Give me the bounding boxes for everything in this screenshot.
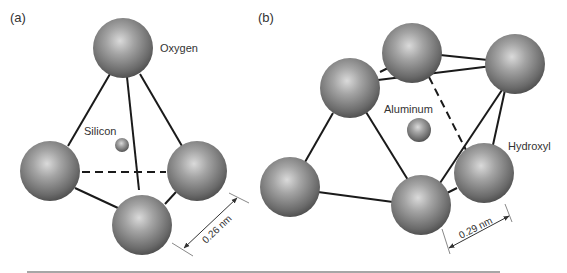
silicon-label: Silicon — [84, 125, 116, 137]
silicon-atom — [115, 138, 129, 152]
hydroxyl-atom-right — [454, 143, 514, 203]
oxygen-atom-bottom — [112, 195, 172, 255]
oxygen-atom-top — [93, 18, 153, 78]
oxygen-label: Oxygen — [160, 42, 198, 54]
aluminum-atom — [407, 118, 431, 142]
hydroxyl-atom-top-right — [485, 34, 545, 94]
hydroxyl-atom-upper-left — [320, 58, 380, 118]
oxygen-atom-right — [167, 141, 227, 201]
panel-a-label: (a) — [10, 10, 26, 25]
hydroxyl-atom-bottom — [391, 175, 451, 235]
oxygen-atom-left — [20, 141, 80, 201]
aluminum-label: Aluminum — [384, 103, 433, 115]
panel-b-dimension: 0.29 nm — [442, 204, 512, 254]
panel-b: (b) Aluminum Hydroxyl 0.29 — [258, 10, 551, 254]
figure-canvas: (a) Oxygen Silicon 0.26 nm (b) — [0, 0, 567, 273]
panel-a: (a) Oxygen Silicon 0.26 nm — [10, 10, 249, 256]
panel-b-label: (b) — [258, 10, 274, 25]
hydroxyl-atom-lower-left — [260, 157, 320, 217]
dimension-label-b: 0.29 nm — [457, 215, 494, 241]
panel-a-dimension: 0.26 nm — [172, 193, 249, 256]
hydroxyl-atom-top-mid — [382, 23, 442, 83]
hydroxyl-label: Hydroxyl — [508, 140, 551, 152]
